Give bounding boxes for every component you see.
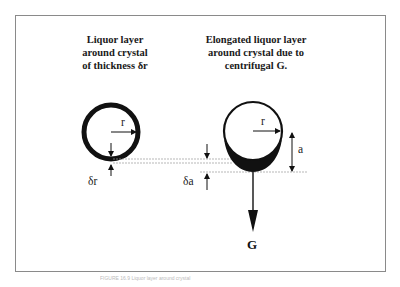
delta-a-label: δa <box>183 175 194 187</box>
force-g-label: G <box>247 237 257 253</box>
centrifugal-force-arrow <box>248 172 258 232</box>
left-thickness-label: δr <box>88 175 97 187</box>
right-radius-label: r <box>261 115 265 127</box>
right-crystal-shape <box>224 102 282 172</box>
guide-lines <box>113 159 308 172</box>
figure-caption: FIGURE 16.9 Liquor layer around crystal <box>100 275 300 281</box>
height-a-label: a <box>298 143 303 155</box>
left-radius-label: r <box>121 116 125 128</box>
diagram-canvas <box>0 0 400 287</box>
